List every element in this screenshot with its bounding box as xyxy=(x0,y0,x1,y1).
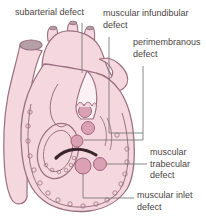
heart-illustration xyxy=(0,0,206,220)
vena-cava-opening xyxy=(20,40,42,50)
label-perimembranous-defect: perimembranous defect xyxy=(133,37,206,60)
label-muscular-trabecular-defect: muscular trabecular defect xyxy=(150,147,206,182)
label-muscular-infundibular-defect: muscular infundibular defect xyxy=(103,8,205,31)
defect-inlet xyxy=(75,158,91,174)
defect-infundibular xyxy=(82,122,95,135)
pulmonary-valve-leaflets xyxy=(76,102,97,107)
label-muscular-inlet-defect: muscular inlet defect xyxy=(137,190,205,213)
defect-perimembranous xyxy=(71,135,83,147)
label-subarterial-defect: subarterial defect xyxy=(15,7,105,19)
vsd-types-figure: subarterial defect muscular infundibular… xyxy=(0,0,206,220)
defect-trabecular xyxy=(94,158,107,171)
